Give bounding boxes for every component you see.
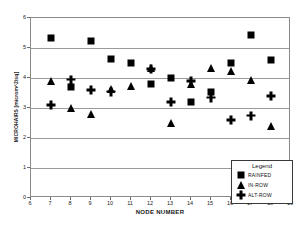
y-tick-label: 6 <box>18 14 26 20</box>
triangle-icon <box>236 180 247 190</box>
square-icon <box>236 170 247 180</box>
legend-item-label: RAINFED <box>248 172 271 178</box>
square-marker <box>148 81 155 88</box>
gridline <box>31 78 289 79</box>
square-marker <box>128 60 135 67</box>
legend-item-rainfed[interactable]: RAINFED <box>232 170 292 180</box>
y-axis-label: MICROHAIRS [microm^2/sq] <box>13 57 19 157</box>
x-tick-label: 13 <box>167 200 173 206</box>
square-marker <box>108 55 115 62</box>
plus-marker <box>67 75 76 84</box>
x-tick-label: 12 <box>147 200 153 206</box>
square-marker <box>48 34 55 41</box>
y-tick-label: 1 <box>18 164 26 170</box>
gridline <box>31 138 289 139</box>
square-marker <box>208 88 215 95</box>
plus-marker <box>237 191 246 200</box>
scatter-chart: 678910111213141516171819 0123456 NODE NU… <box>0 0 306 233</box>
square-marker <box>248 31 255 38</box>
x-tick-label: 9 <box>88 200 91 206</box>
gridline <box>31 108 289 109</box>
x-tick-label: 6 <box>28 200 31 206</box>
legend-item-label: IN-ROW <box>248 182 268 188</box>
plus-marker <box>207 93 216 102</box>
x-tick-label: 14 <box>187 200 193 206</box>
triangle-marker <box>107 85 115 93</box>
triangle-marker <box>127 82 135 90</box>
plus-marker <box>227 116 236 125</box>
y-tick <box>27 107 30 108</box>
triangle-marker <box>87 110 95 118</box>
y-tick <box>27 167 30 168</box>
y-tick <box>27 77 30 78</box>
legend: Legend RAINFEDIN-ROWALT-ROW <box>231 160 293 204</box>
plus-marker <box>87 86 96 95</box>
x-tick-label: 8 <box>68 200 71 206</box>
gridline <box>31 48 289 49</box>
y-tick-label: 0 <box>18 194 26 200</box>
y-tick <box>27 197 30 198</box>
triangle-marker <box>147 64 155 72</box>
legend-item-label: ALT-ROW <box>248 192 272 198</box>
square-marker <box>188 99 195 106</box>
triangle-marker <box>187 80 195 88</box>
y-tick-label: 4 <box>18 74 26 80</box>
square-marker <box>88 37 95 44</box>
triangle-marker <box>207 64 215 72</box>
triangle-marker <box>167 119 175 127</box>
triangle-marker <box>267 122 275 130</box>
x-tick-label: 11 <box>127 200 133 206</box>
plus-marker <box>247 111 256 120</box>
y-tick <box>27 137 30 138</box>
legend-item-in-row[interactable]: IN-ROW <box>232 180 292 190</box>
y-tick-label: 2 <box>18 134 26 140</box>
legend-title: Legend <box>232 163 292 169</box>
square-marker <box>228 60 235 67</box>
y-tick-label: 3 <box>18 104 26 110</box>
triangle-marker <box>227 67 235 75</box>
x-tick-label: 10 <box>107 200 113 206</box>
legend-rows: RAINFEDIN-ROWALT-ROW <box>232 170 292 200</box>
plus-marker <box>147 65 156 74</box>
plus-marker <box>167 98 176 107</box>
plus-icon <box>236 190 247 200</box>
y-tick-label: 5 <box>18 44 26 50</box>
legend-item-alt-row[interactable]: ALT-ROW <box>232 190 292 200</box>
square-marker <box>68 84 75 91</box>
square-marker <box>238 172 245 179</box>
y-tick <box>27 17 30 18</box>
triangle-marker <box>237 181 245 189</box>
x-tick-label: 15 <box>207 200 213 206</box>
plus-marker <box>107 87 116 96</box>
plus-marker <box>267 92 276 101</box>
y-tick <box>27 47 30 48</box>
square-marker <box>268 57 275 64</box>
x-tick-label: 7 <box>48 200 51 206</box>
x-axis-label: NODE NUMBER <box>30 209 290 215</box>
